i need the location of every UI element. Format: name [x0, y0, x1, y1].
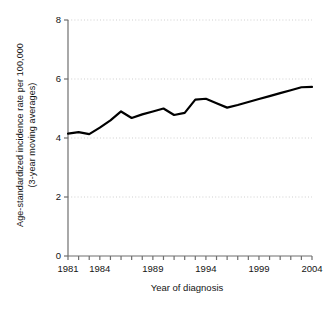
y-tick-label: 8 — [56, 14, 61, 25]
grid-lines — [68, 20, 312, 197]
y-tick-label: 0 — [56, 250, 61, 261]
x-tick-label: 1989 — [142, 263, 163, 274]
x-tick-label: 1994 — [195, 263, 216, 274]
y-tick-label: 4 — [56, 132, 61, 143]
y-tick-label: 2 — [56, 191, 61, 202]
x-tick-label: 1984 — [89, 263, 110, 274]
y-axis-tick-labels: 02468 — [56, 14, 61, 261]
data-series-line — [68, 87, 312, 134]
chart-figure: Age-standardized incidence rate per 100,… — [0, 0, 334, 309]
x-tick-label: 1981 — [57, 263, 78, 274]
y-tick-label: 6 — [56, 73, 61, 84]
x-tick-label: 2004 — [301, 263, 322, 274]
x-tick-label: 1999 — [248, 263, 269, 274]
x-axis-tick-labels: 198119841989199419992004 — [57, 263, 322, 274]
x-axis-title: Year of diagnosis — [52, 282, 322, 293]
line-chart-plot: 02468 198119841989199419992004 — [0, 0, 334, 309]
